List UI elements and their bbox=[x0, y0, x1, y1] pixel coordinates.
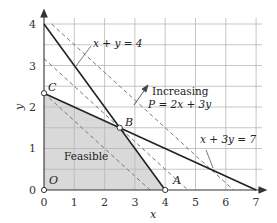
svg-text:3: 3 bbox=[131, 196, 138, 209]
svg-text:5: 5 bbox=[192, 196, 199, 209]
label-x-plus-3y-7: x + 3y = 7 bbox=[200, 133, 256, 145]
svg-text:0: 0 bbox=[41, 196, 48, 209]
y-tick-labels: 0 1 2 3 4 bbox=[29, 18, 36, 197]
y-axis-label: y bbox=[13, 103, 26, 111]
vertex-label-c: C bbox=[48, 81, 57, 94]
y-axis-arrow-icon bbox=[41, 10, 47, 17]
svg-text:7: 7 bbox=[253, 196, 260, 209]
vertex-label-b: B bbox=[124, 116, 133, 129]
x-axis-label: x bbox=[150, 208, 157, 221]
vertex-label-o: O bbox=[49, 174, 58, 187]
label-objective: P = 2x + 3y bbox=[147, 98, 212, 110]
svg-text:4: 4 bbox=[29, 18, 36, 31]
label-x-plus-y-4: x + y = 4 bbox=[93, 37, 142, 49]
svg-text:6: 6 bbox=[222, 196, 229, 209]
svg-text:1: 1 bbox=[29, 142, 36, 155]
vertex-label-a: A bbox=[172, 174, 181, 187]
svg-text:1: 1 bbox=[71, 196, 78, 209]
svg-text:2: 2 bbox=[29, 101, 36, 114]
vertex-a bbox=[163, 187, 168, 192]
label-increasing: Increasing bbox=[152, 85, 209, 97]
svg-text:2: 2 bbox=[101, 196, 108, 209]
svg-text:3: 3 bbox=[29, 60, 36, 73]
label-feasible: Feasible bbox=[64, 150, 108, 162]
vertex-c bbox=[41, 91, 46, 96]
x-axis-arrow-icon bbox=[259, 187, 266, 193]
increasing-arrow-icon bbox=[134, 85, 148, 105]
lp-chart: 0 1 2 3 4 5 6 7 0 1 2 3 4 x y O A B C x … bbox=[0, 0, 277, 223]
svg-text:0: 0 bbox=[29, 184, 36, 197]
vertex-b bbox=[117, 125, 122, 130]
vertex-o bbox=[41, 187, 46, 192]
svg-text:4: 4 bbox=[162, 196, 169, 209]
